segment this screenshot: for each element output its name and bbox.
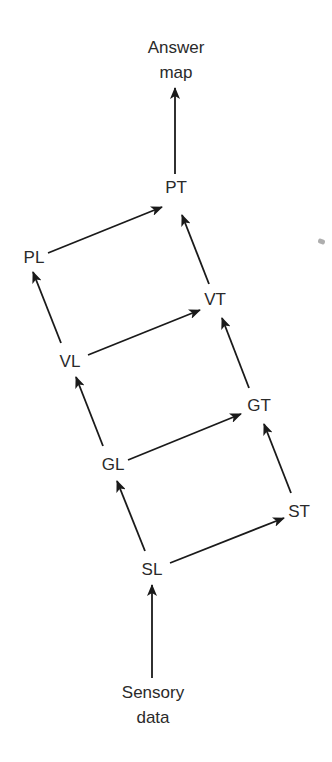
node-vl: VL <box>60 352 81 372</box>
node-gt: GT <box>247 396 271 416</box>
sensory-data-line1: Sensory <box>122 680 184 705</box>
edges-layer <box>0 0 332 762</box>
answer-map-label: Answer map <box>148 35 205 85</box>
edge-vt-to-pt <box>182 215 209 284</box>
node-vt: VT <box>204 290 226 310</box>
node-pt: PT <box>165 178 187 198</box>
answer-map-line2: map <box>148 60 205 85</box>
node-pl: PL <box>24 248 45 268</box>
node-gl: GL <box>102 455 125 475</box>
edge-vl-to-pl <box>33 272 61 343</box>
edge-sl-to-st <box>170 518 284 563</box>
edge-gl-to-gt <box>128 414 241 460</box>
sensory-data-label: Sensory data <box>122 680 184 730</box>
node-sl: SL <box>142 560 163 580</box>
edge-gt-to-vt <box>222 318 249 388</box>
node-st: ST <box>288 502 310 522</box>
edge-vl-to-vt <box>88 310 200 355</box>
edge-gl-to-vl <box>76 377 103 446</box>
edge-sl-to-gl <box>117 481 145 551</box>
answer-map-line1: Answer <box>148 35 205 60</box>
sensory-data-line2: data <box>122 705 184 730</box>
edge-st-to-gt <box>264 424 291 493</box>
edge-pl-to-pt <box>48 207 162 253</box>
diagram-canvas: Answer map PT PL VT VL GT GL ST SL Senso… <box>0 0 332 762</box>
